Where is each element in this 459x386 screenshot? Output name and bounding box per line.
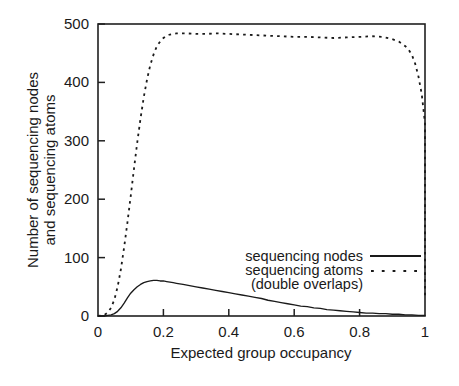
chart-legend: sequencing nodes sequencing atoms (doubl… — [245, 248, 421, 292]
y-axis-ticks — [98, 24, 105, 316]
chart-canvas: 0100200300400500 00.20.40.60.81 Expected… — [0, 0, 459, 386]
y-tick-label: 100 — [64, 249, 89, 266]
chart-figure: 0100200300400500 00.20.40.60.81 Expected… — [0, 0, 459, 386]
x-tick-label: 0.4 — [218, 323, 239, 340]
x-tick-label: 0.6 — [284, 323, 305, 340]
y-axis-title-line2: and sequencing atoms — [41, 95, 58, 246]
x-tick-label: 0.8 — [349, 323, 370, 340]
y-tick-label: 400 — [64, 73, 89, 90]
y-axis-title-line1: Number of sequencing nodes — [24, 72, 41, 268]
y-axis-tick-labels: 0100200300400500 — [64, 15, 89, 324]
y-tick-label: 200 — [64, 190, 89, 207]
x-tick-label: 1 — [421, 323, 429, 340]
y-tick-label: 0 — [81, 307, 89, 324]
x-tick-label: 0.2 — [153, 323, 174, 340]
legend-label-double-overlaps: (double overlaps) — [251, 276, 363, 292]
x-axis-title: Expected group occupancy — [171, 344, 352, 361]
x-axis-tick-labels: 00.20.40.60.81 — [94, 323, 429, 340]
x-tick-label: 0 — [94, 323, 102, 340]
y-tick-label: 300 — [64, 132, 89, 149]
y-tick-label: 500 — [64, 15, 89, 32]
